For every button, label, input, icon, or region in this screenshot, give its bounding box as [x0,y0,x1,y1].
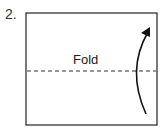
fold-label: Fold [73,52,98,67]
fold-diagram: Fold [0,0,166,135]
